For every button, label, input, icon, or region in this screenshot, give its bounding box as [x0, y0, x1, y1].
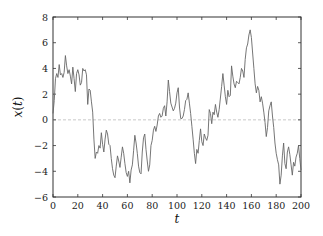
x-tick-label: 0: [50, 200, 56, 211]
y-tick-label: −4: [34, 166, 48, 177]
x-tick-label: 160: [242, 200, 260, 211]
x-tick-label: 60: [121, 200, 133, 211]
y-axis-ticks: −6−4−202468: [34, 12, 301, 203]
y-tick-label: 8: [42, 12, 48, 23]
x-tick-label: 200: [292, 200, 310, 211]
y-tick-label: 4: [42, 63, 48, 74]
plot-frame: [53, 17, 301, 197]
y-tick-label: 6: [42, 37, 48, 48]
x-tick-label: 100: [168, 200, 186, 211]
x-tick-label: 180: [267, 200, 285, 211]
x-tick-label: 140: [218, 200, 236, 211]
series-line-x-t: [53, 30, 301, 184]
y-tick-label: 2: [42, 89, 48, 100]
x-tick-label: 40: [97, 200, 109, 211]
y-axis-label: x(t): [11, 97, 25, 118]
y-tick-label: −2: [34, 140, 48, 151]
y-tick-label: −6: [34, 192, 48, 203]
y-tick-label: 0: [42, 114, 48, 125]
x-tick-label: 20: [72, 200, 84, 211]
x-tick-label: 120: [193, 200, 211, 211]
x-tick-label: 80: [146, 200, 158, 211]
chart: 020406080100120140160180200 −6−4−202468 …: [0, 0, 323, 236]
x-axis-label: t: [175, 212, 180, 226]
